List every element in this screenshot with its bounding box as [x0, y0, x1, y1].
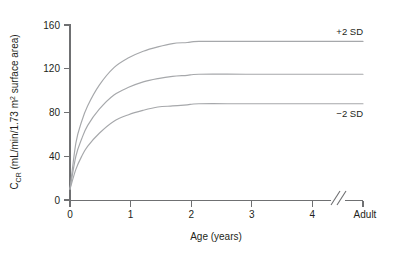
x-tick-label-2: 2 [188, 209, 194, 220]
y-tick-label-0: 0 [54, 195, 60, 206]
curve-minus-2-sd [70, 104, 363, 189]
y-axis-title-subscript: CR [15, 172, 22, 182]
y-axis-title-main: C [9, 182, 20, 189]
y-axis-title: CCR (mL/min/1.73 m2 surface area) [9, 34, 22, 189]
y-tick-label-40: 40 [49, 151, 61, 162]
x-tick-label-0: 0 [67, 209, 73, 220]
y-tick-label-120: 120 [43, 63, 60, 74]
y-tick-label-80: 80 [49, 107, 61, 118]
x-tick-label-adult: Adult [354, 209, 377, 220]
figure-container: 160 120 80 40 0 0 1 2 3 4 Adult Age (yea… [0, 0, 397, 255]
annotation-plus-2-sd: +2 SD [336, 26, 363, 37]
x-tick-label-1: 1 [128, 209, 134, 220]
x-tick-label-3: 3 [249, 209, 255, 220]
curve-plus-2-sd [70, 41, 363, 189]
y-tick-label-160: 160 [43, 20, 60, 31]
y-axis-ticks [64, 25, 70, 200]
axis-break-icon [331, 191, 346, 205]
curve-mean [70, 74, 363, 189]
x-axis-title: Age (years) [190, 231, 242, 242]
y-axis-title-mid: (mL/min/1.73 m [9, 100, 20, 172]
annotation-minus-2-sd: −2 SD [336, 108, 363, 119]
y-axis-title-tail: surface area) [9, 34, 20, 96]
growth-chart-svg: 160 120 80 40 0 0 1 2 3 4 Adult Age (yea… [0, 0, 397, 255]
x-tick-label-4: 4 [310, 209, 316, 220]
x-axis-ticks [70, 201, 363, 207]
